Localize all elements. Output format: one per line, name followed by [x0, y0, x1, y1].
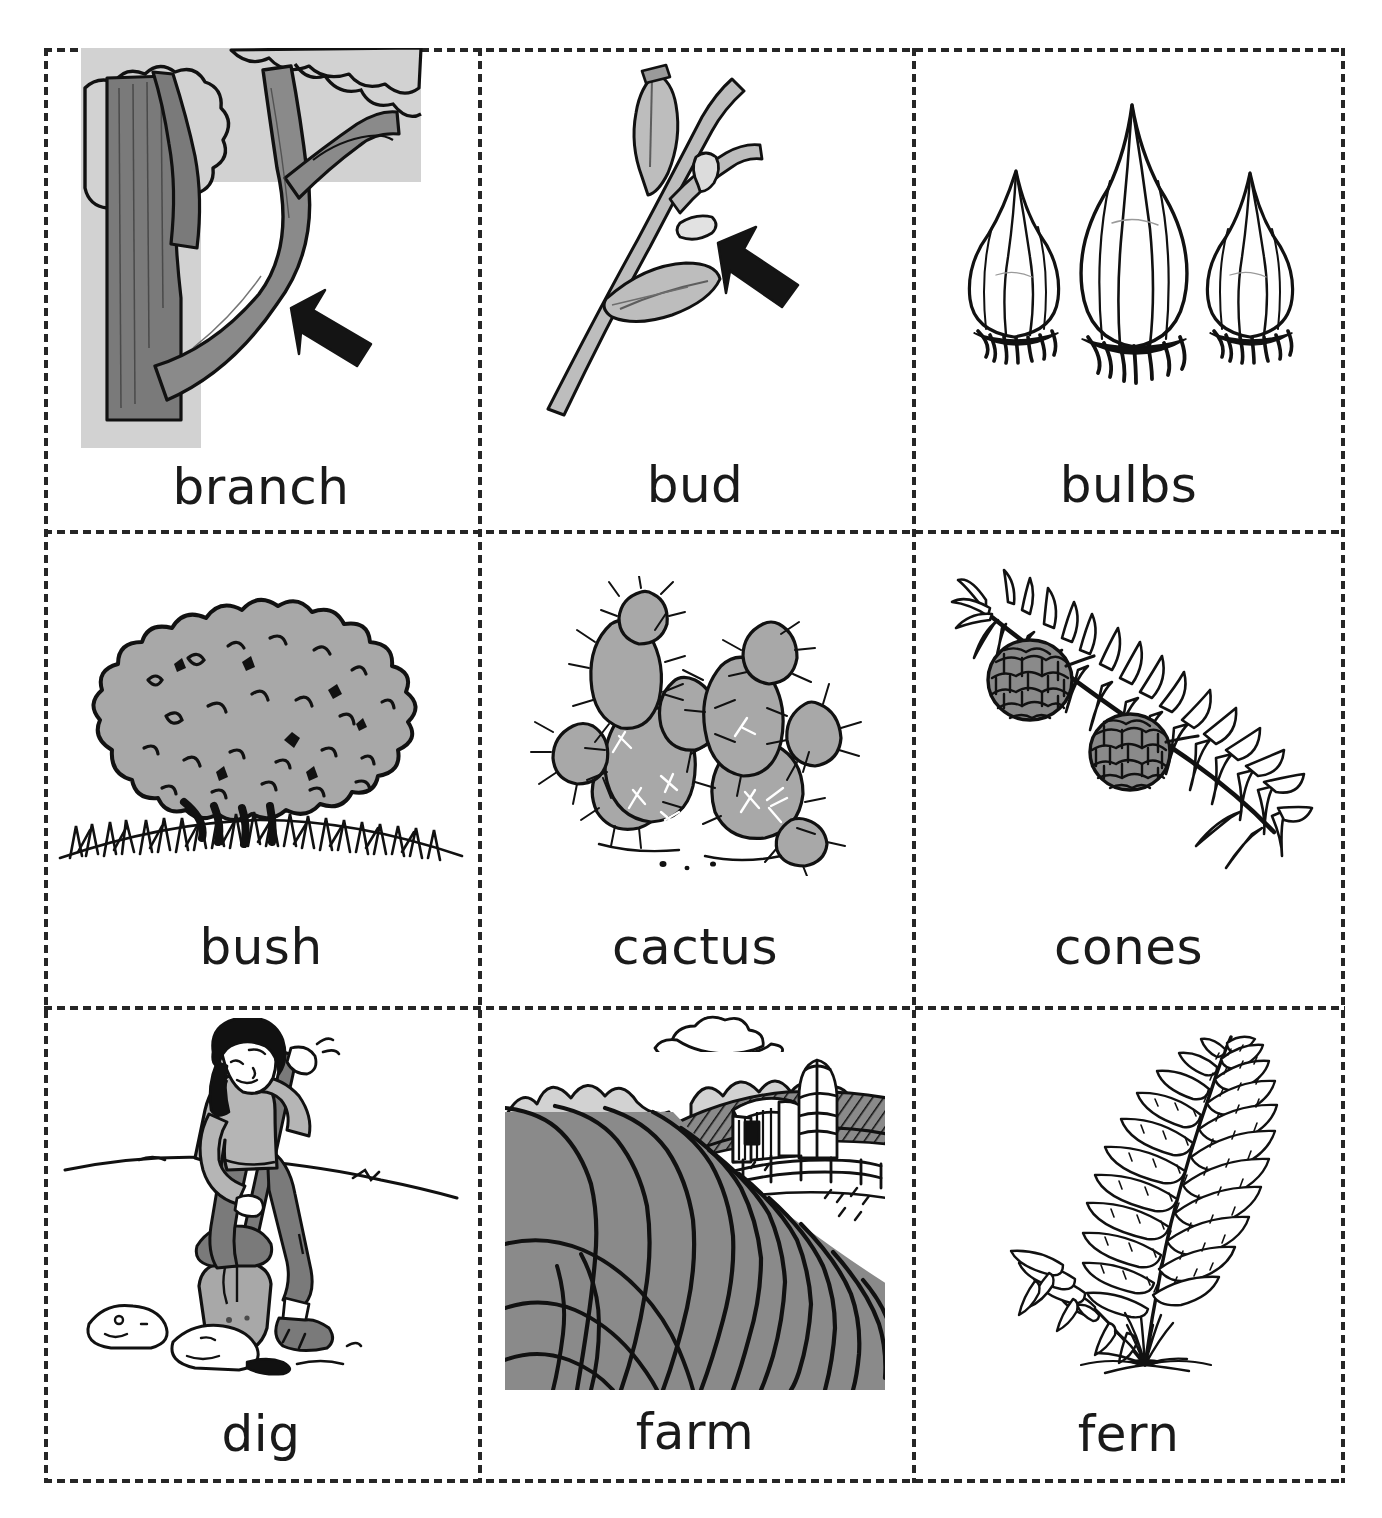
card-label-fern: fern [912, 1409, 1345, 1483]
flashcard-dig[interactable]: dig [44, 1006, 478, 1483]
fern-illustration [912, 1006, 1345, 1409]
flashcard-branch[interactable]: branch [44, 48, 478, 530]
cones-illustration [912, 530, 1345, 922]
bulbs-illustration [912, 48, 1345, 456]
flashcard-sheet: branch [0, 0, 1382, 1518]
flashcard-grid: branch [44, 48, 1345, 1483]
flashcard-farm[interactable]: farm [478, 1006, 912, 1483]
flashcard-cones[interactable]: cones [912, 530, 1345, 1006]
card-label-branch: branch [44, 456, 478, 530]
card-label-cactus: cactus [478, 922, 912, 1006]
flashcard-cactus[interactable]: cactus [478, 530, 912, 1006]
card-label-bush: bush [44, 922, 478, 1006]
cactus-illustration [478, 530, 912, 922]
bud-illustration [478, 48, 912, 456]
farm-illustration [478, 1006, 912, 1401]
flashcard-bush[interactable]: bush [44, 530, 478, 1006]
branch-illustration [44, 48, 478, 456]
flashcard-fern[interactable]: fern [912, 1006, 1345, 1483]
bush-illustration [44, 530, 478, 922]
card-label-cones: cones [912, 922, 1345, 1006]
card-label-bulbs: bulbs [912, 456, 1345, 530]
dig-illustration [44, 1006, 478, 1409]
card-label-bud: bud [478, 456, 912, 530]
card-label-farm: farm [478, 1401, 912, 1483]
flashcard-bulbs[interactable]: bulbs [912, 48, 1345, 530]
card-label-dig: dig [44, 1409, 478, 1483]
flashcard-bud[interactable]: bud [478, 48, 912, 530]
